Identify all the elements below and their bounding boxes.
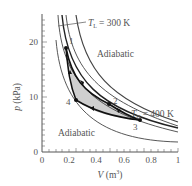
point-3-label: 3	[133, 122, 138, 132]
x-tick: 0.8	[145, 155, 157, 165]
adiabatic-upper-label: Adiabatic	[97, 49, 134, 59]
y-tick: 20	[29, 37, 39, 47]
tl-label: TL= 300 K	[88, 18, 130, 29]
y-tick: 0	[34, 147, 39, 157]
x-tick: 0.2	[63, 155, 74, 165]
x-tick: 0.6	[118, 155, 130, 165]
point-2	[107, 102, 111, 106]
point-1-label: 1	[69, 36, 74, 46]
x-minor-ticks	[49, 148, 178, 152]
point-2-label: 2	[113, 96, 118, 106]
point-1	[64, 46, 68, 50]
x-tick: 0.4	[90, 155, 102, 165]
x-tick: 0	[40, 155, 45, 165]
point-4	[74, 98, 78, 102]
y-axis-title: p (kPa)	[12, 83, 23, 112]
y-tick: 10	[29, 92, 39, 102]
adiabatic-lower-label: Adiabatic	[58, 128, 95, 138]
y-minor-ticks	[42, 20, 47, 146]
x-tick: 1	[176, 155, 181, 165]
th-label: TH= 400 K	[131, 109, 174, 120]
x-axis-title: V (m3)	[98, 169, 123, 181]
point-4-label: 4	[66, 97, 71, 107]
pv-diagram: 0 0.2 0.4 0.6 0.8 1 0 10 20 V (m3) p (kP…	[0, 0, 192, 186]
